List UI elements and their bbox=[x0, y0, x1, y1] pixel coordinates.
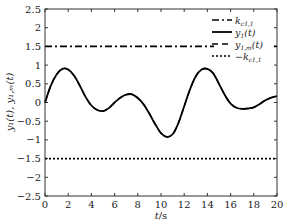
x-axis-label: t/s bbox=[155, 210, 168, 221]
x-tick-label: 8 bbox=[135, 199, 141, 210]
y-tick-label: 1 bbox=[35, 60, 41, 71]
y-tick-label: −2 bbox=[26, 172, 41, 183]
series-dashed-line bbox=[45, 68, 277, 137]
y-tick-label: −2.5 bbox=[17, 191, 41, 202]
x-tick-label: 10 bbox=[155, 199, 168, 210]
x-tick-label: 20 bbox=[271, 199, 284, 210]
y-tick-label: 1.5 bbox=[25, 41, 41, 52]
y-axis-label: y₁(t), y₁,ₘ(t) bbox=[4, 73, 15, 133]
y-tick-label: 0 bbox=[35, 97, 41, 108]
series-solid-line bbox=[45, 68, 277, 137]
x-tick-label: 6 bbox=[111, 199, 117, 210]
x-tick-label: 12 bbox=[178, 199, 191, 210]
y-tick-label: 2 bbox=[35, 22, 41, 33]
plot-series bbox=[45, 46, 277, 158]
x-tick-label: 16 bbox=[224, 199, 237, 210]
x-tick-label: 0 bbox=[42, 199, 48, 210]
y-tick-label: −1.5 bbox=[17, 153, 41, 164]
y-tick-label: 2.5 bbox=[25, 4, 41, 15]
y-tick-label: −1 bbox=[26, 134, 41, 145]
x-tick-label: 18 bbox=[247, 199, 260, 210]
legend: kc1,1y1(t)y1,m(t)−kc1,1 bbox=[212, 14, 274, 63]
x-tick-label: 4 bbox=[88, 199, 94, 210]
y-tick-label: −0.5 bbox=[17, 116, 41, 127]
x-tick-label: 2 bbox=[65, 199, 71, 210]
y-tick-label: 0.5 bbox=[25, 78, 41, 89]
legend-label: y1(t) bbox=[234, 27, 256, 39]
x-tick-label: 14 bbox=[201, 199, 214, 210]
line-chart: 2.521.510.50−0.5−1−1.5−2−2.5 02468101214… bbox=[0, 0, 285, 224]
